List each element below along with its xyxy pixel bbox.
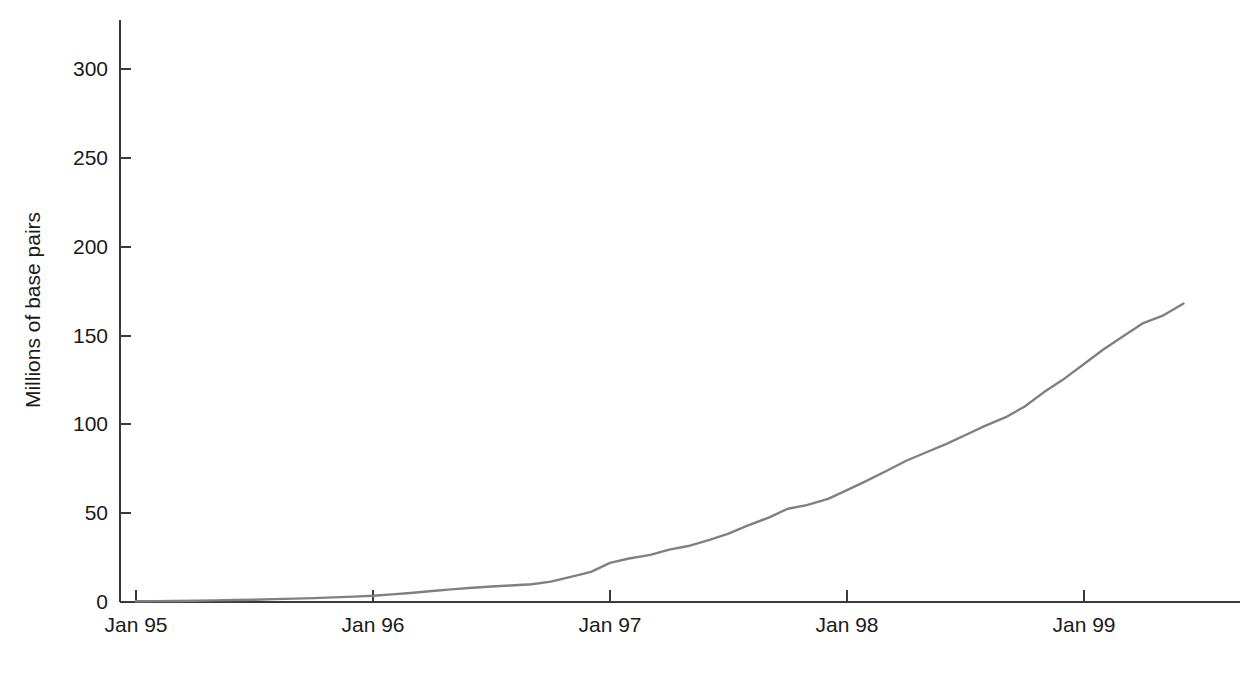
y-tick-label-300: 300 (73, 57, 108, 80)
y-axis-title: Millions of base pairs (21, 212, 44, 408)
chart-background (0, 0, 1253, 675)
y-tick-label-50: 50 (85, 501, 108, 524)
x-tick-label-jan-97: Jan 97 (578, 613, 641, 636)
x-tick-label-jan-96: Jan 96 (341, 613, 404, 636)
x-tick-label-jan-98: Jan 98 (815, 613, 878, 636)
y-tick-label-200: 200 (73, 235, 108, 258)
y-tick-label-250: 250 (73, 146, 108, 169)
line-chart: 0 50 100 150 200 250 300 Jan 95 Jan 96 J… (0, 0, 1253, 675)
y-tick-label-150: 150 (73, 324, 108, 347)
x-tick-label-jan-95: Jan 95 (104, 613, 167, 636)
y-tick-label-0: 0 (96, 590, 108, 613)
x-tick-label-jan-99: Jan 99 (1052, 613, 1115, 636)
chart-page: 0 50 100 150 200 250 300 Jan 95 Jan 96 J… (0, 0, 1253, 675)
y-tick-label-100: 100 (73, 412, 108, 435)
